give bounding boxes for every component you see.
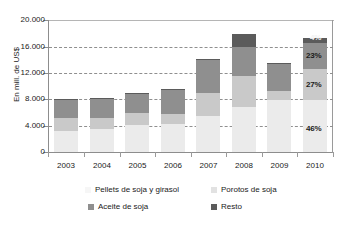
bar-segment-pellets-2004 [90, 99, 114, 118]
x-axis-label-2006: 2006 [155, 161, 191, 170]
x-tick-8 [333, 152, 334, 157]
y-axis-label-8000: 8.000 [5, 95, 45, 103]
pct-label-porotos-2010: 46% [306, 124, 321, 133]
bar-segment-pellets-2006 [161, 90, 185, 114]
bar-2007[interactable] [196, 59, 220, 152]
bar-segment-aceite-2003 [54, 118, 78, 131]
bar-segment-aceite-2008 [232, 76, 256, 107]
legend-swatch-aceite [88, 204, 94, 210]
x-tick-6 [262, 152, 263, 157]
bar-2003[interactable] [54, 99, 78, 152]
bar-segment-resto-2008 [232, 34, 256, 47]
y-axis-label-4000: 4.000 [5, 122, 45, 130]
bar-segment-pellets-2003 [54, 100, 78, 118]
x-tick-2 [120, 152, 121, 157]
legend-swatch-resto [211, 204, 217, 210]
x-axis-label-2009: 2009 [262, 161, 297, 170]
legend-item-pellets[interactable]: Pellets de soja y girasol [85, 185, 179, 194]
y-axis-label-16000: 16.000 [5, 43, 45, 51]
x-axis-label-2005: 2005 [120, 161, 155, 170]
pct-label-pellets-2010: 23% [306, 51, 321, 60]
bar-2008[interactable] [232, 34, 256, 152]
pct-label-aceite-2010: 27% [306, 80, 321, 89]
legend-label-porotos: Porotos de soja [221, 185, 277, 194]
bar-segment-porotos-2009 [267, 100, 291, 152]
y-axis-label-20000: 20.000 [5, 16, 45, 24]
legend-label-resto: Resto [221, 202, 242, 211]
bar-segment-aceite-2009 [267, 91, 291, 100]
pct-label-resto-2010: 4% [310, 33, 321, 42]
x-axis-label-2010: 2010 [297, 161, 333, 170]
chart-root: En mill. de US$ 20.000 16.000 12.000 8.0… [0, 0, 344, 225]
x-tick-3 [155, 152, 156, 157]
chart-legend: Pellets de soja y girasol Porotos de soj… [0, 182, 344, 224]
bar-2006[interactable] [161, 89, 185, 152]
bar-segment-pellets-2009 [267, 64, 291, 91]
legend-item-resto[interactable]: Resto [211, 202, 242, 211]
legend-label-aceite: Aceite de soja [98, 202, 148, 211]
bar-segment-pellets-2007 [196, 60, 220, 93]
bar-segment-pellets-2008 [232, 47, 256, 76]
bar-segment-aceite-2004 [90, 118, 114, 129]
bar-segment-aceite-2005 [125, 113, 149, 125]
bar-segment-porotos-2007 [196, 116, 220, 152]
x-axis-label-2003: 2003 [48, 161, 84, 170]
bar-segment-porotos-2003 [54, 131, 78, 152]
x-tick-0 [48, 152, 49, 157]
bar-segment-aceite-2007 [196, 93, 220, 116]
bar-segment-porotos-2005 [125, 125, 149, 152]
y-axis-label-12000: 12.000 [5, 69, 45, 77]
y-axis-label-0: 0 [5, 148, 45, 156]
legend-label-pellets: Pellets de soja y girasol [95, 185, 179, 194]
bar-segment-porotos-2006 [161, 124, 185, 152]
legend-item-porotos[interactable]: Porotos de soja [211, 185, 277, 194]
x-tick-4 [191, 152, 192, 157]
legend-item-aceite[interactable]: Aceite de soja [88, 202, 148, 211]
bar-segment-pellets-2005 [125, 94, 149, 113]
x-axis-label-2008: 2008 [226, 161, 262, 170]
x-axis-label-2007: 2007 [191, 161, 226, 170]
bar-segment-aceite-2006 [161, 114, 185, 124]
bar-segment-porotos-2008 [232, 107, 256, 152]
bar-2005[interactable] [125, 93, 149, 152]
x-tick-5 [226, 152, 227, 157]
x-tick-1 [84, 152, 85, 157]
legend-swatch-porotos [211, 187, 217, 193]
x-axis-label-2004: 2004 [84, 161, 120, 170]
legend-swatch-pellets [85, 187, 91, 193]
x-tick-7 [297, 152, 298, 157]
bar-2004[interactable] [90, 98, 114, 152]
bar-segment-porotos-2004 [90, 129, 114, 152]
gridline-16000 [49, 47, 333, 48]
bar-2009[interactable] [267, 63, 291, 152]
